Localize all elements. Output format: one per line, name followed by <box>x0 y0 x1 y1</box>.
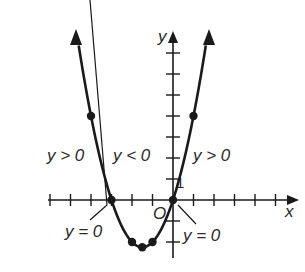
curve-point <box>87 112 95 120</box>
zero-left-label: y = 0 <box>64 222 103 241</box>
y-axis-arrow-icon <box>168 31 178 43</box>
curve-point <box>107 196 115 204</box>
zero-left-pointer <box>90 0 107 205</box>
curve-point <box>138 243 146 251</box>
y-axis: y <box>157 27 180 258</box>
curve-point <box>148 238 156 246</box>
curve-point <box>128 238 136 246</box>
x-axis-label: x <box>284 202 294 221</box>
region-left-label: y > 0 <box>46 146 85 165</box>
curve-point <box>169 196 177 204</box>
zero-right-label: y = 0 <box>182 226 221 245</box>
y-axis-label: y <box>157 27 168 46</box>
curve-point <box>189 112 197 120</box>
region-right-label: y > 0 <box>192 146 231 165</box>
curve-right-arrow-icon <box>203 29 215 45</box>
region-middle-label: y < 0 <box>112 146 151 165</box>
parabola-graph: x y O 1 y > 0 y < 0 y > 0 y = 0 y = 0 <box>0 0 305 272</box>
zero-right-pointer <box>178 205 196 224</box>
curve-left-arrow-icon <box>70 29 82 45</box>
